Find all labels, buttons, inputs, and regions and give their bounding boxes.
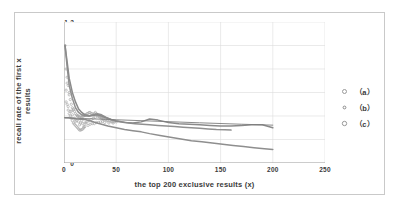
y-axis-label-line2: results [23,31,32,171]
legend-label: （b） [355,102,374,113]
legend-label: （a） [355,86,374,97]
circle-marker-icon [338,104,351,111]
legend-label: （c） [355,118,374,129]
legend-item-c[interactable]: （c） [338,115,386,131]
legend: （a） （b） （c） [338,83,386,131]
x-tick-label: 50 [112,166,120,173]
legend-item-a[interactable]: （a） [338,83,386,99]
x-tick-label: 150 [215,166,226,173]
y-axis-label-line1: recall rate of the first x [14,31,23,171]
x-axis-label: the top 200 exclusive results (x) [64,180,325,189]
x-tick-label: 100 [163,166,174,173]
circle-marker-icon [338,120,351,127]
gridlines [64,22,325,163]
y-axis-label: recall rate of the first x results [14,31,32,171]
x-tick-label: 250 [319,166,330,173]
legend-item-b[interactable]: （b） [338,99,386,115]
x-tick-label: 200 [267,166,278,173]
chart-figure: 1.2 1 0.8 0.6 0.4 0.2 0 0 50 100 150 200… [0,0,401,215]
plot-canvas [64,22,325,163]
circle-marker-icon [338,88,351,95]
plot-area [64,22,325,163]
x-tick-label: 0 [62,166,66,173]
